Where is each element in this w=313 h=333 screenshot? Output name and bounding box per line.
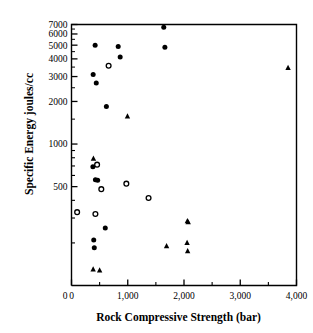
svg-text:4000: 4000	[49, 54, 68, 64]
data-point-filled-circle	[104, 104, 109, 109]
data-point-open-circle	[93, 212, 98, 217]
scatter-chart-figure: Specific Energy joules/cc Rock Compressi…	[0, 0, 313, 333]
svg-text:500: 500	[53, 182, 68, 192]
data-point-open-circle	[75, 210, 80, 215]
svg-text:6000: 6000	[49, 29, 68, 39]
data-point-filled-circle	[91, 237, 96, 242]
data-points-group	[75, 25, 291, 273]
x-axis-ticks	[72, 280, 297, 286]
data-point-filled-circle	[91, 72, 96, 77]
svg-text:0: 0	[69, 291, 74, 301]
svg-text:0: 0	[63, 291, 68, 301]
data-point-open-circle	[99, 187, 104, 192]
svg-text:1000: 1000	[49, 139, 68, 149]
data-point-open-circle	[95, 162, 100, 167]
data-point-open-circle	[124, 181, 129, 186]
svg-text:3000: 3000	[49, 72, 68, 82]
data-point-open-circle	[106, 63, 111, 68]
svg-text:1,000: 1,000	[117, 291, 139, 301]
data-point-filled-triangle	[97, 267, 102, 272]
data-point-filled-triangle	[185, 248, 190, 253]
y-axis-tick-labels: 50010002000300040005000600070000	[49, 20, 68, 301]
data-point-filled-triangle	[90, 266, 95, 271]
svg-text:7000: 7000	[49, 20, 68, 30]
data-point-filled-circle	[161, 25, 166, 30]
data-point-filled-triangle	[125, 113, 130, 118]
data-point-filled-circle	[95, 178, 100, 183]
svg-text:4,000: 4,000	[286, 291, 308, 301]
data-point-filled-triangle	[91, 155, 96, 160]
y-axis-title: Specific Energy joules/cc	[23, 9, 35, 259]
data-point-filled-circle	[118, 55, 123, 60]
svg-text:5000: 5000	[49, 41, 68, 51]
svg-text:3,000: 3,000	[230, 291, 252, 301]
data-point-filled-circle	[116, 44, 121, 49]
data-point-filled-circle	[103, 225, 108, 230]
data-point-open-circle	[146, 196, 151, 201]
data-point-filled-triangle	[285, 65, 290, 70]
data-point-filled-circle	[92, 245, 97, 250]
x-axis-title: Rock Compressive Strength (bar)	[0, 311, 313, 323]
data-point-filled-triangle	[184, 240, 189, 245]
data-point-filled-triangle	[164, 243, 169, 248]
data-point-filled-circle	[162, 45, 167, 50]
svg-text:2,000: 2,000	[173, 291, 195, 301]
axis-frame	[72, 25, 297, 286]
svg-text:2000: 2000	[49, 97, 68, 107]
plot-area: 01,0002,0003,0004,000 500100020003000400…	[0, 0, 313, 333]
data-point-filled-circle	[94, 81, 99, 86]
x-axis-tick-labels: 01,0002,0003,0004,000	[69, 291, 307, 301]
data-point-filled-circle	[93, 43, 98, 48]
